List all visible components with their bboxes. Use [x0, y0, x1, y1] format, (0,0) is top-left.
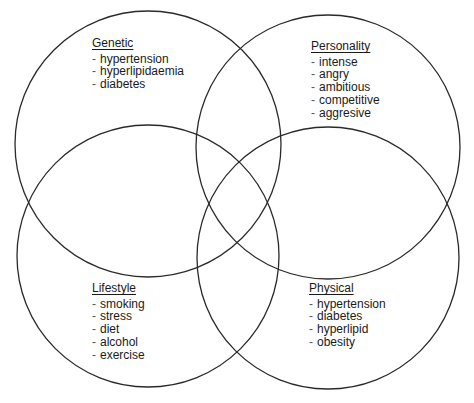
set-item: -diabetes — [92, 78, 184, 91]
set-title-lifestyle: Lifestyle — [92, 282, 136, 295]
set-item: -aggresive — [311, 107, 380, 120]
set-item: -exercise — [92, 349, 145, 362]
set-item-label: diabetes — [100, 77, 145, 91]
set-items-physical: -hypertension-diabetes-hyperlipid-obesit… — [309, 298, 386, 349]
set-items-lifestyle: -smoking-stress-diet-alcohol-exercise — [92, 298, 145, 362]
set-item-label: exercise — [100, 348, 145, 362]
bullet-dash: - — [311, 106, 315, 120]
bullet-dash: - — [311, 80, 315, 94]
bullet-dash: - — [309, 322, 313, 336]
set-physical: Physical -hypertension-diabetes-hyperlip… — [309, 282, 386, 349]
set-item: -obesity — [309, 336, 386, 349]
bullet-dash: - — [92, 322, 96, 336]
circle-lifestyle — [17, 125, 279, 387]
set-genetic: Genetic -hypertension-hyperlipidaemia-di… — [92, 37, 184, 91]
venn-diagram: Genetic -hypertension-hyperlipidaemia-di… — [0, 0, 474, 403]
set-personality: Personality -intense-angry-ambitious-com… — [311, 40, 380, 119]
set-lifestyle: Lifestyle -smoking-stress-diet-alcohol-e… — [92, 282, 145, 361]
set-title-physical: Physical — [309, 282, 354, 295]
venn-circles — [0, 0, 474, 403]
circle-physical — [197, 127, 459, 389]
bullet-dash: - — [92, 77, 96, 91]
set-items-personality: -intense-angry-ambitious-competitive-agg… — [311, 56, 380, 120]
set-title-personality: Personality — [311, 40, 370, 53]
set-item-label: obesity — [317, 335, 355, 349]
set-title-genetic: Genetic — [92, 37, 133, 50]
set-items-genetic: -hypertension-hyperlipidaemia-diabetes — [92, 53, 184, 91]
bullet-dash: - — [92, 348, 96, 362]
bullet-dash: - — [311, 93, 315, 107]
bullet-dash: - — [309, 335, 313, 349]
bullet-dash: - — [92, 335, 96, 349]
set-item-label: aggresive — [319, 106, 371, 120]
